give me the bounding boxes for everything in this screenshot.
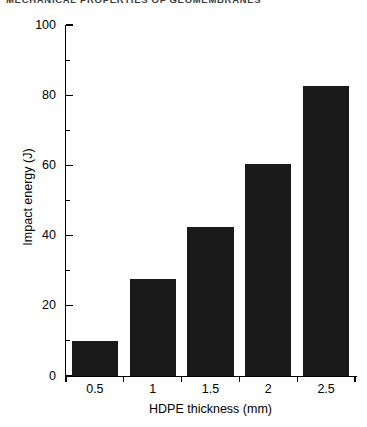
y-tick-mark — [66, 24, 73, 25]
y-minor-tick-mark — [66, 200, 70, 201]
bar — [187, 227, 233, 376]
y-tick-label: 20 — [42, 298, 56, 313]
x-axis-title: HDPE thickness (mm) — [66, 402, 355, 416]
x-tick-label: 0.5 — [86, 382, 103, 397]
y-tick-label: 80 — [42, 88, 56, 103]
x-tick-mark — [123, 377, 124, 383]
x-tick-mark — [65, 377, 66, 383]
y-tick-mark — [66, 305, 73, 306]
bar — [72, 341, 118, 376]
y-minor-tick-mark — [66, 130, 70, 131]
x-tick-label: 1 — [149, 382, 156, 397]
y-tick-label: 100 — [35, 18, 56, 33]
bar — [303, 86, 349, 376]
y-minor-tick-mark — [66, 60, 70, 61]
x-tick-label: 2.5 — [317, 382, 334, 397]
x-tick-mark — [354, 377, 355, 383]
y-tick-mark — [66, 235, 73, 236]
y-tick-label: 40 — [42, 228, 56, 243]
y-minor-tick-mark — [66, 340, 70, 341]
x-tick-mark — [181, 377, 182, 383]
bar — [130, 279, 176, 376]
y-tick-label: 60 — [42, 158, 56, 173]
plot-area: 020406080100 — [66, 25, 355, 376]
x-tick-label: 1.5 — [202, 382, 219, 397]
y-minor-tick-mark — [66, 270, 70, 271]
x-tick-label: 2 — [265, 382, 272, 397]
y-tick-mark — [66, 165, 73, 166]
x-tick-mark — [239, 377, 240, 383]
x-tick-mark — [297, 377, 298, 383]
y-tick-mark — [66, 95, 73, 96]
bar-chart-figure: 020406080100 HDPE thickness (mm) Impact … — [0, 0, 367, 427]
bar — [245, 164, 291, 376]
y-axis-title: Impact energy (J) — [21, 107, 35, 287]
y-tick-label: 0 — [49, 369, 56, 384]
